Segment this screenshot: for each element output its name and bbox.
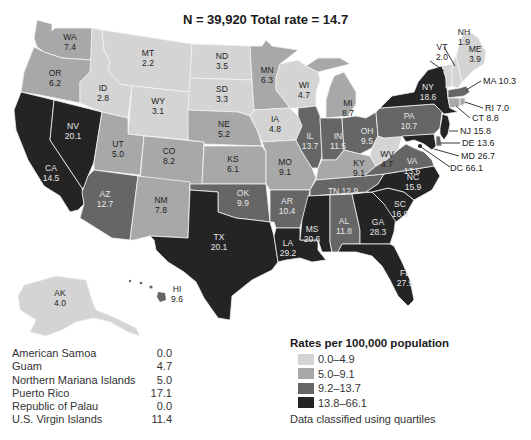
territory-name: Guam: [12, 360, 42, 373]
legend-label: 0.0–4.9: [318, 353, 355, 365]
svg-text:WA7.4: WA7.4: [63, 32, 77, 52]
svg-text:CO8.2: CO8.2: [163, 146, 176, 166]
svg-text:ME3.9: ME3.9: [469, 44, 482, 64]
legend-item: 5.0–9.1: [298, 367, 449, 382]
state-AK[interactable]: [18, 276, 140, 336]
svg-text:MD 26.7: MD 26.7: [461, 151, 495, 161]
svg-text:CT 8.8: CT 8.8: [472, 113, 499, 123]
legend-note: Data classified using quartiles: [290, 413, 449, 425]
svg-text:NM7.8: NM7.8: [154, 195, 167, 215]
legend: Rates per 100,000 population 0.0–4.9 5.0…: [290, 337, 449, 425]
territory-row: American Samoa0.0: [12, 347, 172, 360]
svg-text:KY9.1: KY9.1: [353, 158, 365, 178]
svg-text:OK9.9: OK9.9: [237, 188, 250, 208]
legend-swatch: [298, 354, 314, 365]
territory-name: Northern Mariana Islands: [12, 374, 136, 387]
territory-name: American Samoa: [12, 347, 96, 360]
svg-text:UT5.0: UT5.0: [112, 139, 124, 159]
legend-swatch: [298, 368, 314, 379]
svg-text:MT2.2: MT2.2: [142, 48, 154, 68]
legend-title: Rates per 100,000 population: [290, 337, 449, 349]
territory-row: Guam4.7: [12, 360, 172, 373]
svg-text:MO9.1: MO9.1: [278, 157, 292, 177]
territory-row: Northern Mariana Islands5.0: [12, 374, 172, 387]
svg-text:HI9.6: HI9.6: [171, 284, 183, 304]
svg-text:KS6.1: KS6.1: [227, 154, 239, 174]
svg-text:WI4.7: WI4.7: [298, 80, 310, 100]
territory-rate: 11.4: [151, 413, 172, 426]
svg-text:OR6.2: OR6.2: [49, 68, 62, 88]
svg-text:MA 10.3: MA 10.3: [483, 76, 516, 86]
svg-text:RI 7.0: RI 7.0: [485, 103, 509, 113]
svg-text:MN6.3: MN6.3: [260, 65, 273, 85]
territory-name: U.S. Virgin Islands: [12, 413, 102, 426]
state-DE[interactable]: [436, 136, 442, 146]
legend-item: 0.0–4.9: [298, 352, 449, 367]
svg-text:OH9.5: OH9.5: [361, 126, 374, 146]
territories-table: American Samoa0.0 Guam4.7 Northern Maria…: [12, 347, 172, 427]
territory-name: Republic of Palau: [12, 400, 98, 413]
svg-text:TN 12.9: TN 12.9: [328, 186, 359, 196]
legend-swatch: [298, 383, 314, 394]
state-MA[interactable]: [448, 86, 470, 98]
svg-text:WY3.1: WY3.1: [151, 96, 165, 116]
svg-text:SD3.3: SD3.3: [216, 84, 228, 104]
territory-row: Republic of Palau0.0: [12, 400, 172, 413]
svg-text:VT2.0: VT2.0: [436, 42, 448, 62]
legend-label: 9.2–13.7: [318, 382, 361, 394]
territory-row: Puerto Rico17.1: [12, 387, 172, 400]
territory-rate: 0.0: [157, 400, 172, 413]
svg-text:FL27.9: FL27.9: [397, 268, 414, 288]
svg-text:WV4.7: WV4.7: [380, 149, 394, 169]
territory-name: Puerto Rico: [12, 387, 69, 400]
svg-text:ND3.5: ND3.5: [216, 51, 228, 71]
territory-rate: 17.1: [151, 387, 172, 400]
territory-rate: 4.7: [157, 360, 172, 373]
territory-rate: 0.0: [157, 347, 172, 360]
svg-text:NH1.9: NH1.9: [458, 27, 470, 47]
state-HI[interactable]: [129, 280, 166, 302]
svg-text:NJ 15.8: NJ 15.8: [460, 126, 491, 136]
state-RI[interactable]: [460, 98, 465, 106]
svg-text:DC 66.1: DC 66.1: [450, 163, 483, 173]
svg-text:GA28.3: GA28.3: [370, 217, 387, 237]
svg-text:DE 13.6: DE 13.6: [462, 138, 495, 148]
territory-rate: 5.0: [157, 374, 172, 387]
svg-text:MS20.6: MS20.6: [304, 224, 321, 244]
svg-text:MI8.7: MI8.7: [342, 98, 354, 118]
legend-swatch: [298, 397, 314, 408]
territory-row: U.S. Virgin Islands11.4: [12, 413, 172, 426]
svg-text:NE5.2: NE5.2: [218, 119, 230, 139]
legend-label: 5.0–9.1: [318, 368, 355, 380]
legend-item: 13.8–66.1: [298, 396, 449, 411]
state-CT[interactable]: [448, 98, 460, 108]
legend-item: 9.2–13.7: [298, 381, 449, 396]
svg-text:AK4.0: AK4.0: [54, 288, 66, 308]
legend-label: 13.8–66.1: [318, 397, 367, 409]
